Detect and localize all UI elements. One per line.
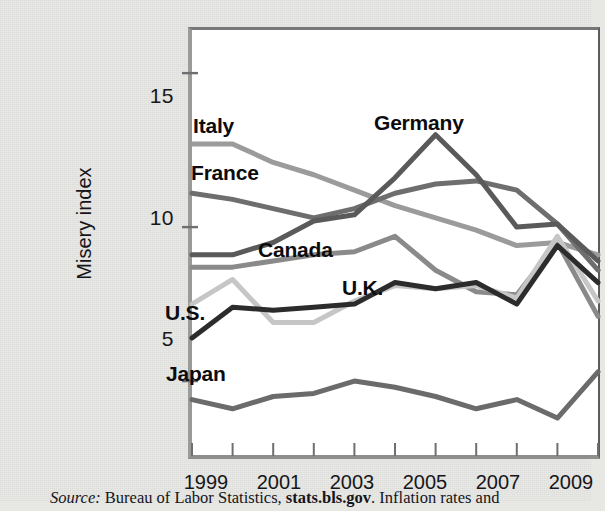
chart-svg-canvas: [40, 16, 605, 511]
source-prefix: Source:: [50, 488, 101, 507]
series-line-japan: [192, 372, 598, 418]
series-label-us: U.S.: [165, 301, 205, 325]
series-line-us: [192, 246, 598, 338]
series-label-france: France: [191, 161, 259, 185]
series-label-japan: Japan: [166, 362, 226, 386]
source-suffix: . Inflation rates and: [371, 488, 499, 507]
source-mid: Bureau of Labor Statistics,: [101, 488, 286, 507]
source-link-text: stats.bls.gov: [286, 488, 371, 507]
x-tick-label-2009: 2009: [531, 471, 605, 494]
series-label-canada: Canada: [258, 238, 333, 262]
misery-index-line-chart: Misery index 15 10 5 1999 2001 2003 2005…: [40, 16, 605, 511]
series-label-italy: Italy: [193, 114, 234, 138]
series-label-germany: Germany: [374, 111, 464, 135]
series-label-uk: U.K.: [342, 276, 383, 300]
y-axis-label: Misery index: [73, 144, 96, 304]
y-tick-label-15: 15: [132, 84, 174, 108]
y-tick-label-10: 10: [132, 206, 174, 230]
source-caption: Source: Bureau of Labor Statistics, stat…: [50, 488, 499, 508]
y-tick-label-5: 5: [132, 327, 174, 351]
